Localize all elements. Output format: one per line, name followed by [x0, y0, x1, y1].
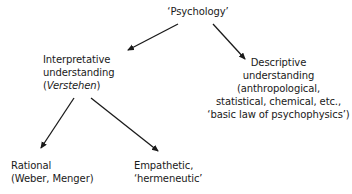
descriptive-line-1: Descriptive — [206, 56, 351, 69]
rational-line-2: (Weber, Menger) — [11, 172, 93, 185]
paren-close: ) — [97, 80, 101, 91]
arrow-interpretative-to-rational — [41, 98, 74, 148]
node-psychology: ‘Psychology’ — [165, 5, 231, 18]
interpretative-line-3: (Verstehen) — [43, 79, 114, 92]
node-psychology-label: ‘Psychology’ — [165, 5, 231, 18]
descriptive-line-4: statistical, chemical, etc., — [206, 95, 351, 108]
interpretative-line-2: understanding — [43, 66, 114, 79]
empathetic-line-1: Empathetic, — [134, 159, 202, 172]
interpretative-line-1: Interpretative — [43, 53, 114, 66]
node-rational: Rational (Weber, Menger) — [11, 159, 93, 185]
descriptive-line-2: understanding — [206, 69, 351, 82]
node-interpretative-understanding: Interpretative understanding (Verstehen) — [43, 53, 114, 92]
arrow-interpretative-to-empathetic — [91, 98, 158, 151]
node-empathetic: Empathetic, ‘hermeneutic’ — [134, 159, 202, 185]
rational-line-1: Rational — [11, 159, 93, 172]
descriptive-line-3: (anthropological, — [206, 82, 351, 95]
verstehen-term: Verstehen — [47, 80, 97, 91]
empathetic-line-2: ‘hermeneutic’ — [134, 172, 202, 185]
arrow-root-to-interpretative — [128, 24, 178, 50]
node-descriptive-understanding: Descriptive understanding (anthropologic… — [206, 56, 351, 121]
arrow-root-to-descriptive — [213, 24, 245, 59]
descriptive-line-5: ‘basic law of psychophysics’) — [206, 108, 351, 121]
